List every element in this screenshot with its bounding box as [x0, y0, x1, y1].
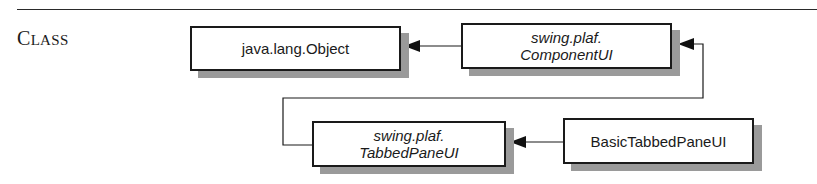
class-label: java.lang.Object: [242, 40, 350, 57]
class-box-object: java.lang.Object: [190, 26, 401, 71]
class-label: swing.plaf. ComponentUI: [520, 29, 613, 63]
class-box-tabbedpaneui: swing.plaf. TabbedPaneUI: [312, 121, 506, 167]
arrowhead-icon: [404, 40, 420, 52]
class-box-basictabbedpaneui: BasicTabbedPaneUI: [563, 118, 754, 164]
arrowhead-icon: [678, 38, 694, 50]
class-box-componentui: swing.plaf. ComponentUI: [461, 23, 672, 69]
arrowhead-icon: [510, 136, 526, 148]
class-label: swing.plaf. TabbedPaneUI: [359, 127, 459, 161]
edge-basic-to-tabbedpaneui: [510, 136, 563, 148]
edge-componentui-to-object: [404, 40, 461, 52]
class-label: BasicTabbedPaneUI: [591, 133, 727, 150]
